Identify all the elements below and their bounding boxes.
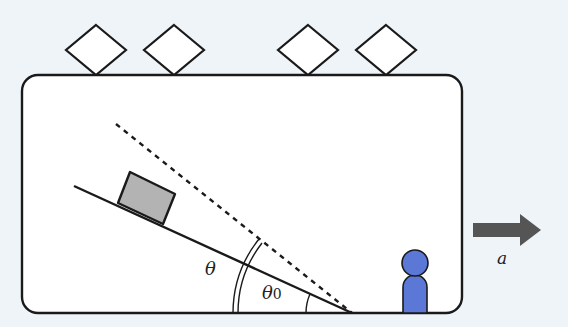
person-head	[402, 250, 428, 276]
person	[402, 250, 428, 313]
theta0-subscript: 0	[273, 286, 282, 302]
person-body	[403, 275, 427, 313]
acceleration-label: a	[497, 248, 507, 268]
acceleration-arrow-icon	[473, 214, 541, 246]
diagram-canvas	[0, 0, 568, 327]
car-body	[22, 75, 462, 313]
wheel-3	[278, 25, 338, 75]
theta0-label: θ0	[262, 282, 282, 303]
wheel-1	[66, 25, 126, 75]
wheel-2	[144, 25, 204, 75]
theta0-symbol: θ	[262, 282, 273, 303]
wheel-4	[356, 25, 416, 75]
wheels	[66, 25, 416, 75]
theta-label: θ	[205, 258, 216, 279]
